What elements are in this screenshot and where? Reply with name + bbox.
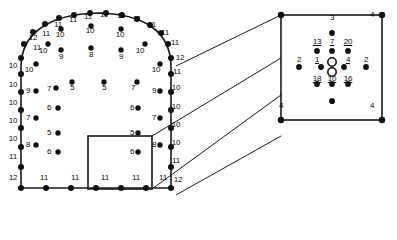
node (33, 142, 38, 147)
node (318, 64, 324, 70)
detail-cluster-valence-label: 18 (313, 75, 322, 83)
node (55, 149, 60, 154)
node (314, 48, 320, 54)
boundary-valence-label: 11 (101, 174, 109, 182)
node (329, 30, 335, 36)
detail-corner-valence-label: 4 (370, 102, 374, 110)
interior-valence-label: 6 (47, 148, 51, 156)
node (18, 144, 24, 150)
inner-square-path (88, 136, 152, 189)
node (143, 185, 149, 191)
interior-valence-label: 5 (47, 129, 51, 137)
boundary-valence-label: 11 (117, 12, 125, 20)
arch-boundary-path (21, 13, 171, 188)
node (341, 64, 347, 70)
boundary-valence-label: 10 (9, 99, 18, 107)
node (329, 48, 335, 54)
boundary-valence-label: 11 (171, 39, 179, 47)
figure-root: 1211111111111111111111111211101010101112… (0, 0, 397, 240)
node (33, 88, 38, 93)
interior-valence-label: 6 (130, 148, 134, 156)
boundary-valence-label: 10 (172, 84, 181, 92)
detail-cluster-valence-label: 3 (330, 98, 334, 106)
node (18, 89, 24, 95)
hollow-node (328, 58, 336, 66)
node (157, 88, 162, 93)
interior-valence-label: 10 (136, 47, 145, 55)
node (135, 105, 140, 110)
node (68, 185, 74, 191)
interior-valence-label: 7 (47, 85, 51, 93)
connector-line-top (176, 15, 281, 66)
boundary-valence-label: 11 (54, 21, 62, 29)
interior-valence-label: 10 (56, 31, 65, 39)
detail-corner-valence-label: 4 (370, 11, 374, 19)
node (118, 185, 124, 191)
interior-valence-label: 7 (26, 114, 30, 122)
boundary-valence-label: 11 (133, 15, 141, 23)
boundary-valence-label: 11 (148, 21, 156, 29)
interior-valence-label: 9 (152, 87, 156, 95)
node (18, 125, 24, 131)
detail-cluster-valence-label: 10 (328, 75, 337, 83)
interior-valence-label: 8 (152, 141, 156, 149)
interior-valence-label: 6 (130, 104, 134, 112)
node (21, 41, 27, 47)
boundary-valence-label: 11 (159, 174, 167, 182)
boundary-valence-label: 10 (9, 135, 18, 143)
interior-valence-label: 10 (86, 27, 95, 35)
detail-cluster-valence-label: 1 (315, 56, 319, 64)
interior-valence-label: 5 (70, 84, 74, 92)
boundary-valence-label: 11 (42, 30, 50, 38)
boundary-valence-label: 11 (84, 13, 92, 21)
boundary-valence-label: 12 (9, 174, 18, 182)
interior-valence-label: 5 (130, 129, 134, 137)
node (42, 21, 48, 27)
node (55, 130, 60, 135)
boundary-valence-label: 11 (132, 174, 140, 182)
node (33, 115, 38, 120)
node (93, 185, 99, 191)
detail-cluster-valence-label: 20 (344, 38, 353, 46)
boundary-valence-label: 12 (174, 176, 183, 184)
connector-line-bottom (176, 136, 281, 195)
detail-cluster-valence-label: 4 (346, 56, 350, 64)
node (168, 55, 174, 61)
detail-corner-valence-label: 4 (279, 102, 283, 110)
node (18, 71, 24, 77)
boundary-valence-label: 12 (29, 34, 38, 42)
boundary-valence-label: 10 (9, 117, 18, 125)
node (168, 185, 174, 191)
node (18, 55, 24, 61)
interior-valence-label: 7 (131, 84, 135, 92)
interior-valence-label: 8 (26, 141, 30, 149)
detail-corner-valence-label: 4 (279, 11, 283, 19)
inner-square (88, 136, 152, 189)
boundary-valence-label: 11 (9, 153, 17, 161)
detail-cluster-valence-label: 2 (364, 56, 368, 64)
node (43, 185, 49, 191)
node (18, 164, 24, 170)
boundary-valence-label: 10 (172, 121, 181, 129)
interior-valence-label: 10 (39, 47, 48, 55)
interior-valence-label: 9 (59, 53, 63, 61)
interior-valence-label: 9 (26, 87, 30, 95)
node (345, 48, 351, 54)
interior-valence-label: 7 (152, 114, 156, 122)
boundary-valence-label: 11 (100, 11, 108, 19)
node (53, 85, 58, 90)
node (135, 130, 140, 135)
detail-cluster-valence-label: 7 (330, 38, 334, 46)
detail-cluster-valence-label: 2 (297, 56, 301, 64)
arch-outline (21, 13, 171, 188)
interior-valence-label: 10 (25, 66, 34, 74)
detail-cluster-valence-label: 13 (313, 38, 322, 46)
interior-valence-label: 6 (47, 104, 51, 112)
boundary-valence-label: 11 (40, 174, 48, 182)
boundary-valence-label: 11 (69, 16, 77, 24)
node (33, 61, 38, 66)
interior-valence-label: 8 (89, 51, 93, 59)
interior-valence-label: 10 (116, 31, 125, 39)
interior-valence-label: 9 (119, 53, 123, 61)
node (55, 105, 60, 110)
